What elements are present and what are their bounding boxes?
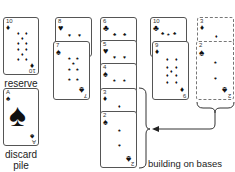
arrow-line <box>159 113 215 129</box>
arrow-head-icon <box>152 126 159 132</box>
right-bracket <box>197 102 234 113</box>
left-bracket <box>139 88 150 168</box>
building-label: building on bases <box>148 158 235 169</box>
bracket-arrow-diagram <box>0 0 235 172</box>
